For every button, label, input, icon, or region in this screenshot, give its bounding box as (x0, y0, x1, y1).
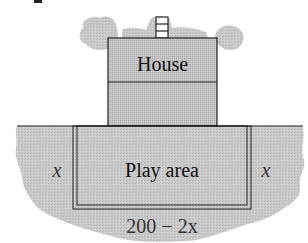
play-area-diagram: House Play area x x 200 − 2x (0, 0, 308, 243)
cropped-glyph (34, 0, 42, 3)
left-side-dimension: x (52, 159, 62, 181)
bottom-length-dimension: 200 − 2x (126, 215, 197, 237)
right-side-dimension: x (261, 159, 271, 181)
play-area-label: Play area (125, 159, 199, 182)
house: House (108, 38, 217, 126)
house-label: House (137, 53, 188, 75)
chimney (156, 17, 168, 38)
